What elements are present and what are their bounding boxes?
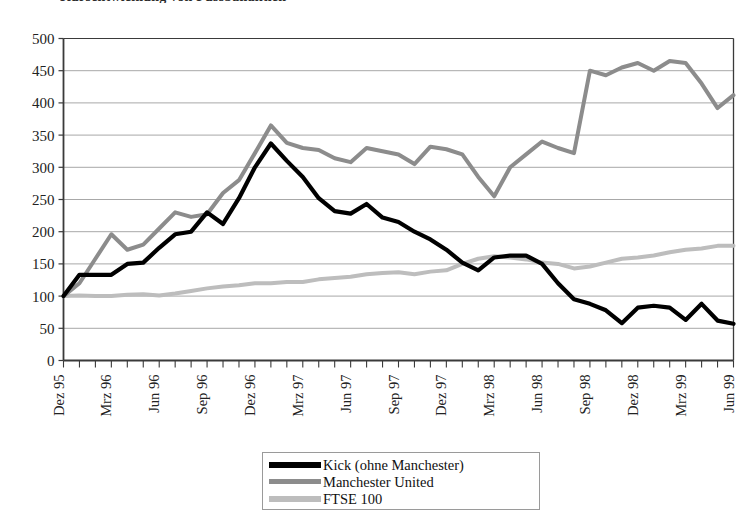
svg-text:500: 500: [32, 31, 55, 47]
y-axis-labels: 050100150200250300350400450500: [32, 31, 55, 369]
x-axis-labels: Dez 95Mrz 96Jun 96Sep 96Dez 96Mrz 97Jun …: [51, 375, 737, 417]
svg-text:300: 300: [32, 160, 55, 176]
legend-item-manchester-united: Manchester United: [269, 473, 533, 490]
legend-item-kick: Kick (ohne Manchester): [269, 456, 533, 473]
legend-swatch-kick: [269, 462, 321, 468]
legend-label-kick: Kick (ohne Manchester): [323, 457, 464, 473]
svg-text:Jun 97: Jun 97: [338, 375, 354, 413]
svg-text:Dez 95: Dez 95: [51, 375, 67, 416]
svg-text:Jun 99: Jun 99: [721, 375, 737, 413]
data-series: [64, 61, 734, 324]
grid-lines: [64, 39, 734, 329]
svg-text:350: 350: [32, 128, 55, 144]
svg-text:Mrz 96: Mrz 96: [98, 375, 114, 417]
legend-label-manchester-united: Manchester United: [323, 474, 434, 490]
svg-text:150: 150: [32, 256, 55, 272]
svg-text:50: 50: [40, 321, 55, 337]
svg-text:250: 250: [32, 192, 55, 208]
svg-text:200: 200: [32, 224, 55, 240]
legend-swatch-ftse-100: [269, 496, 321, 502]
svg-text:Dez 96: Dez 96: [242, 375, 258, 416]
svg-text:Jun 98: Jun 98: [529, 375, 545, 413]
svg-text:100: 100: [32, 289, 55, 305]
svg-text:Jun 96: Jun 96: [146, 375, 162, 413]
x-axis-ticks: [64, 361, 734, 368]
svg-text:Sep 96: Sep 96: [194, 375, 210, 415]
svg-text:Dez 98: Dez 98: [625, 375, 641, 416]
svg-text:Mrz 98: Mrz 98: [481, 375, 497, 417]
svg-text:Sep 97: Sep 97: [386, 375, 402, 415]
legend-label-ftse-100: FTSE 100: [323, 491, 382, 507]
chart-figure: Kursentwicklung von Fussballaktien 05010…: [0, 0, 755, 524]
svg-text:Dez 97: Dez 97: [433, 375, 449, 416]
line-chart-plot: 050100150200250300350400450500 Dez 95Mrz…: [0, 0, 755, 524]
svg-text:Mrz 97: Mrz 97: [290, 375, 306, 417]
chart-legend: Kick (ohne Manchester) Manchester United…: [262, 452, 540, 510]
svg-text:0: 0: [47, 353, 55, 369]
legend-swatch-manchester-united: [269, 479, 321, 484]
series-line-ftse-100: [64, 246, 734, 296]
series-line-manchester-united: [64, 61, 734, 296]
svg-text:450: 450: [32, 63, 55, 79]
svg-text:Sep 98: Sep 98: [577, 375, 593, 415]
svg-text:Mrz 99: Mrz 99: [673, 375, 689, 417]
svg-text:400: 400: [32, 95, 55, 111]
legend-item-ftse-100: FTSE 100: [269, 490, 533, 507]
